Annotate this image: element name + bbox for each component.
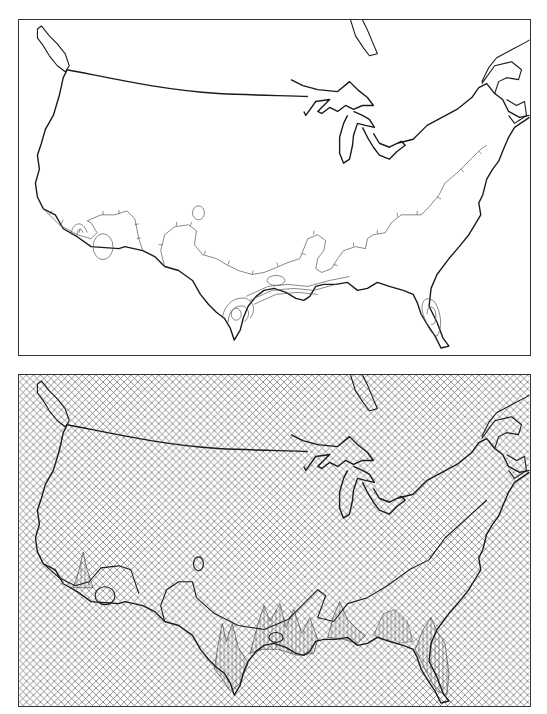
contour-small-ring <box>192 206 204 220</box>
hudson-bay-coast <box>351 20 378 56</box>
contour-gulf-core <box>231 308 241 320</box>
maritime-coast <box>482 40 530 124</box>
contour-ring-texas <box>267 275 285 285</box>
contour-map-panel <box>18 19 531 356</box>
surface-mesh-panel <box>18 374 531 707</box>
northern-border <box>67 70 308 97</box>
east-coast <box>403 117 529 348</box>
great-lakes-coast <box>291 80 530 164</box>
gulf-coast <box>43 209 403 340</box>
contour-map <box>19 20 530 355</box>
mesh-background <box>20 375 530 706</box>
hachure-ticks <box>49 151 481 274</box>
contour-gulf-3 <box>246 276 349 304</box>
west-coast <box>35 70 67 209</box>
contour-texas-lobe <box>161 145 487 274</box>
surface-mesh-map <box>19 375 530 706</box>
vancouver-island <box>37 26 69 72</box>
contour-gulf-1 <box>222 298 253 318</box>
